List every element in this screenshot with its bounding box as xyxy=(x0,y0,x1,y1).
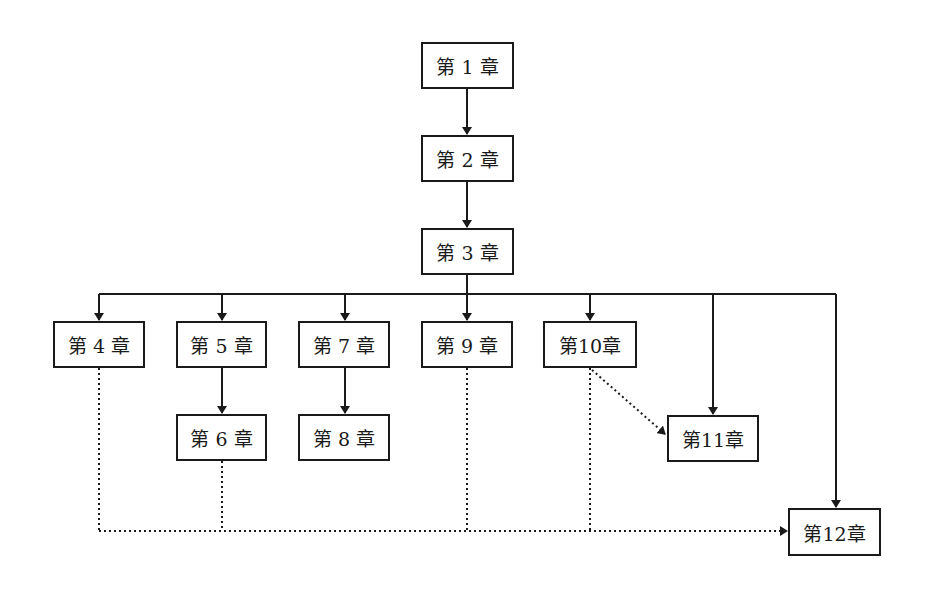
node-chapter-7: 第 7 章 xyxy=(298,321,390,368)
node-chapter-1: 第 1 章 xyxy=(421,42,514,89)
node-chapter-8: 第 8 章 xyxy=(298,414,390,461)
node-chapter-3: 第 3 章 xyxy=(421,228,514,275)
node-chapter-5: 第 5 章 xyxy=(176,321,267,368)
node-chapter-12: 第12章 xyxy=(788,508,881,556)
node-chapter-4: 第 4 章 xyxy=(53,321,145,368)
diagram-canvas xyxy=(0,0,930,594)
node-chapter-9: 第 9 章 xyxy=(421,321,513,368)
node-chapter-6: 第 6 章 xyxy=(176,414,267,461)
node-chapter-2: 第 2 章 xyxy=(421,135,514,182)
node-chapter-10: 第10章 xyxy=(543,321,637,368)
node-chapter-11: 第11章 xyxy=(667,415,759,462)
edge-ch10-ch11 xyxy=(592,370,665,434)
